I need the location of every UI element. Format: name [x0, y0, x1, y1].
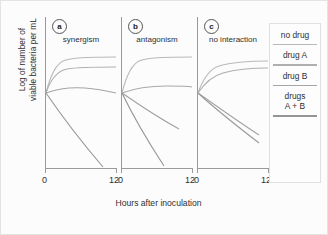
- chart-panel-a: 0 12 a synergism: [45, 17, 117, 169]
- panel-caption-b-line-1: antagonism: [136, 35, 177, 44]
- x-tick-label-0-b: 0: [118, 175, 123, 185]
- chart-panel-c: 0 12 c no interaction: [197, 17, 269, 169]
- chart-panel-b: 0 12 b antagonism: [121, 17, 193, 169]
- panel-badge-b: b: [128, 19, 143, 34]
- legend-swatch-drug-b: [273, 85, 317, 86]
- y-axis-label-line-2: viable bacteria per mL: [28, 0, 39, 135]
- x-tick-label-0-c: 0: [194, 175, 199, 185]
- panel-badge-c: c: [204, 19, 219, 34]
- curve-no-drug-b: [122, 57, 192, 93]
- legend-swatch-drug-a: [273, 64, 317, 65]
- panel-caption-c-line-1: no: [209, 35, 218, 44]
- legend-label-drugs-ab-line-2: A + B: [273, 101, 317, 111]
- legend-label-drug-b-line-1: drug B: [273, 71, 317, 81]
- figure-panel: Log of number of viable bacteria per mL …: [0, 0, 328, 235]
- legend-box: no drug drug A drug B drugs A + B: [269, 23, 321, 183]
- panel-caption-a-line-1: synergism: [63, 35, 99, 44]
- curve-drug-a-a: [46, 67, 116, 93]
- y-axis-label: Log of number of viable bacteria per mL: [18, 0, 39, 135]
- legend-entry-no-drug: no drug: [273, 30, 317, 45]
- x-tick-0-a: [45, 169, 46, 173]
- legend-entry-drug-b: drug B: [273, 71, 317, 86]
- curve-drugs-ab-b: [122, 86, 192, 93]
- legend-label-drug-a-line-1: drug A: [273, 50, 317, 60]
- legend-label-no-drug-line-1: no drug: [273, 30, 317, 40]
- panel-caption-b: antagonism: [121, 35, 193, 45]
- panel-caption-c-line-2: interaction: [220, 35, 257, 44]
- curve-no-drug-c: [198, 61, 268, 93]
- legend-swatch-no-drug: [273, 44, 317, 45]
- x-tick-12-b: [192, 169, 193, 173]
- x-tick-0-c: [197, 169, 198, 173]
- x-tick-0-b: [121, 169, 122, 173]
- legend-swatch-drugs-ab: [273, 115, 317, 116]
- curve-drugs-ab-a: [46, 93, 103, 167]
- curve-drug-b-c: [198, 93, 259, 135]
- x-tick-12-a: [116, 169, 117, 173]
- y-axis-label-line-1: Log of number of: [18, 0, 29, 135]
- x-tick-label-0-a: 0: [42, 175, 47, 185]
- legend-label-drug-a: drug A: [273, 50, 317, 64]
- curve-drug-a-c: [198, 68, 268, 93]
- legend-entry-drugs-ab: drugs A + B: [273, 91, 317, 116]
- x-axis-label: Hours after inoculation: [41, 198, 276, 208]
- panel-badge-a: a: [52, 19, 67, 34]
- panel-caption-c: no interaction: [197, 35, 269, 45]
- legend-label-drug-b: drug B: [273, 71, 317, 85]
- legend-label-drugs-ab-line-1: drugs: [273, 91, 317, 101]
- curve-drug-b-b: [122, 93, 164, 166]
- legend-label-drugs-ab: drugs A + B: [273, 91, 317, 115]
- panel-caption-a: synergism: [45, 35, 117, 45]
- curve-drug-b-a: [46, 88, 116, 93]
- legend-label-no-drug: no drug: [273, 30, 317, 44]
- legend-entry-drug-a: drug A: [273, 50, 317, 65]
- curve-drugs-ab-c: [198, 93, 259, 143]
